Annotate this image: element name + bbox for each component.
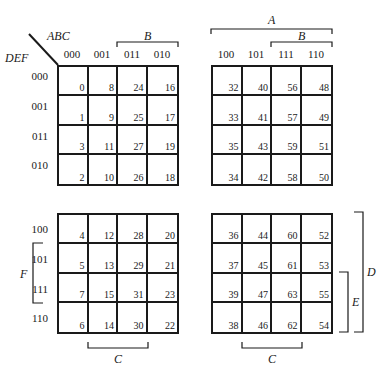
kmap-cell: 3 [59,126,89,155]
minterm-number: 42 [258,173,268,183]
minterm-number: 53 [319,261,329,271]
minterm-number: 33 [229,113,239,123]
minterm-number: 28 [134,231,144,241]
bracket-e [339,272,348,332]
minterm-number: 23 [165,290,175,300]
minterm-number: 50 [319,173,329,183]
minterm-number: 15 [104,290,114,300]
minterm-number: 58 [288,173,298,183]
kmap-cell: 20 [148,215,178,244]
kmap-cell: 61 [272,244,302,273]
minterm-number: 52 [319,231,329,241]
col-label: 011 [117,48,147,60]
kmap-cell: 37 [213,244,243,273]
row-label: 000 [20,70,48,82]
minterm-number: 55 [319,290,329,300]
minterm-number: 8 [109,83,114,93]
kmap-cell: 8 [89,67,119,96]
kmap-cell: 11 [89,126,119,155]
kmap-cell: 24 [118,67,148,96]
kmap-cell: 27 [118,126,148,155]
minterm-number: 9 [109,113,114,123]
minterm-number: 14 [104,321,114,331]
kmap-top-right: 32405648334157493543595134425850 [211,65,333,186]
kmap-cell: 53 [302,244,332,273]
minterm-number: 0 [80,83,85,93]
col-label: 000 [57,48,87,60]
kmap-cell: 42 [243,155,273,184]
kmap-cell: 2 [59,155,89,184]
kmap-cell: 29 [118,244,148,273]
kmap-cell: 38 [213,303,243,332]
corner-row-vars: DEF [5,51,28,66]
kmap-cell: 18 [148,155,178,184]
minterm-number: 18 [165,173,175,183]
minterm-number: 56 [288,83,298,93]
kmap-cell: 4 [59,215,89,244]
kmap-cell: 9 [89,96,119,125]
kmap-cell: 62 [272,303,302,332]
col-label: 100 [211,48,241,60]
minterm-number: 40 [258,83,268,93]
kmap-cell: 60 [272,215,302,244]
minterm-number: 31 [134,290,144,300]
minterm-number: 48 [319,83,329,93]
label-f: F [20,267,27,282]
minterm-number: 43 [258,142,268,152]
kmap-top-left: 08241619251731127192102618 [57,65,179,186]
kmap-cell: 26 [118,155,148,184]
kmap-cell: 23 [148,274,178,303]
minterm-number: 16 [165,83,175,93]
kmap-bottom-right: 36446052374561533947635538466254 [211,213,333,334]
minterm-number: 47 [258,290,268,300]
kmap-cell: 28 [118,215,148,244]
row-label: 110 [20,312,48,324]
bracket-a [211,29,332,34]
kmap-cell: 47 [243,274,273,303]
kmap-cell: 31 [118,274,148,303]
kmap-cell: 36 [213,215,243,244]
kmap-cell: 46 [243,303,273,332]
bracket-c-right [242,342,302,348]
minterm-number: 11 [104,142,114,152]
row-label: 011 [20,130,48,142]
minterm-number: 34 [229,173,239,183]
minterm-number: 10 [104,173,114,183]
label-b-left: B [144,29,151,44]
minterm-number: 22 [165,321,175,331]
kmap-cell: 58 [272,155,302,184]
bracket-d [354,212,363,332]
minterm-number: 27 [134,142,144,152]
kmap-cell: 33 [213,96,243,125]
minterm-number: 13 [104,261,114,271]
kmap-cell: 16 [148,67,178,96]
minterm-number: 49 [319,113,329,123]
kmap-cell: 1 [59,96,89,125]
kmap-cell: 7 [59,274,89,303]
minterm-number: 39 [229,290,239,300]
kmap-cell: 32 [213,67,243,96]
kmap-cell: 43 [243,126,273,155]
minterm-number: 46 [258,321,268,331]
label-b-right: B [298,29,305,44]
row-label: 111 [20,283,48,295]
minterm-number: 54 [319,321,329,331]
minterm-number: 44 [258,231,268,241]
minterm-number: 57 [288,113,298,123]
row-label: 010 [20,159,48,171]
kmap-cell: 5 [59,244,89,273]
minterm-number: 61 [288,261,298,271]
minterm-number: 17 [165,113,175,123]
kmap-bottom-left: 4122820513292171531236143022 [57,213,179,334]
kmap-cell: 54 [302,303,332,332]
col-label: 001 [87,48,117,60]
kmap-cell: 41 [243,96,273,125]
kmap-cell: 45 [243,244,273,273]
kmap-cell: 56 [272,67,302,96]
col-label: 010 [147,48,177,60]
minterm-number: 3 [80,142,85,152]
minterm-number: 29 [134,261,144,271]
minterm-number: 51 [319,142,329,152]
minterm-number: 6 [80,321,85,331]
kmap-cell: 35 [213,126,243,155]
